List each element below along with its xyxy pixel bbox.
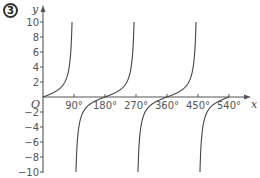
y-tick-label: 4 xyxy=(33,62,39,73)
y-axis-arrow-icon xyxy=(41,5,46,12)
y-tick-label: 2 xyxy=(33,77,39,88)
x-tick-label: 180° xyxy=(93,100,117,111)
x-tick-label: 450° xyxy=(186,100,210,111)
tan-curve-branch xyxy=(43,22,72,97)
y-tick-label: −6 xyxy=(24,137,39,148)
plot-area: 108642−2−4−6−8−1090°180°270°360°450°540°… xyxy=(0,0,260,177)
x-tick-label: 270° xyxy=(124,100,148,111)
origin-label: O xyxy=(31,98,40,111)
x-tick-label: 540° xyxy=(217,100,241,111)
tan-graph-figure: 3 108642−2−4−6−8−1090°180°270°360°450°54… xyxy=(0,0,260,177)
y-tick-label: −8 xyxy=(24,152,39,163)
x-axis-arrow-icon xyxy=(244,95,251,100)
axis-labels: 108642−2−4−6−8−1090°180°270°360°450°540°… xyxy=(18,3,258,177)
x-tick-label: 90° xyxy=(65,100,83,111)
y-tick-label: −4 xyxy=(24,122,39,133)
x-tick-label: 360° xyxy=(155,100,179,111)
x-axis-title: x xyxy=(251,98,258,111)
y-tick-label: −10 xyxy=(18,167,39,178)
question-number-badge: 3 xyxy=(3,3,18,18)
y-tick-label: 8 xyxy=(33,32,39,43)
y-tick-label: 6 xyxy=(33,47,39,58)
y-tick-label: 10 xyxy=(26,17,39,28)
y-axis-title: y xyxy=(31,3,39,16)
